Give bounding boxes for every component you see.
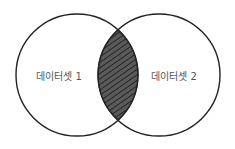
set-2-label: 데이터셋 2	[151, 71, 197, 82]
set-1-label: 데이터셋 1	[36, 71, 82, 82]
venn-diagram: 데이터셋 1 데이터셋 2	[0, 0, 235, 149]
